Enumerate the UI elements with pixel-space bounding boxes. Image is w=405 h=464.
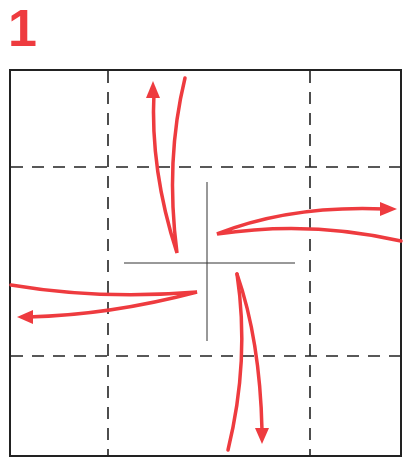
arrow-left-head [17,310,33,324]
arrow-right-head [380,202,397,216]
arrow-right-icon [217,209,401,241]
fold-diagram [0,0,405,464]
arrow-up-head [146,81,160,98]
center-cross [124,182,295,341]
arrow-left-icon [11,285,197,317]
arrow-up-icon [153,78,185,253]
arrow-down-head [255,428,269,444]
